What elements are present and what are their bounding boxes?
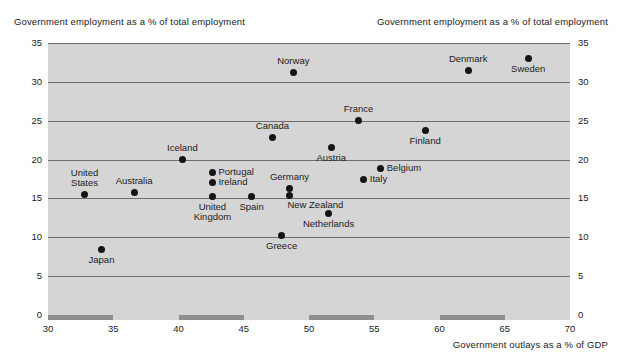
y-tick-right-30: 30 (578, 76, 604, 87)
data-point[interactable] (286, 185, 293, 192)
data-point[interactable] (131, 189, 138, 196)
data-point[interactable] (209, 179, 216, 186)
data-point-label: Austria (316, 153, 346, 164)
gridline-y-20 (48, 160, 570, 161)
data-point[interactable] (179, 156, 186, 163)
y-tick-left-20: 20 (16, 154, 42, 165)
y-tick-left-35: 35 (16, 37, 42, 48)
data-point-label: France (344, 104, 374, 115)
data-point-label: Sweden (511, 64, 545, 75)
x-axis-band-5 (374, 315, 439, 320)
data-point[interactable] (328, 144, 335, 151)
x-tick-70: 70 (555, 323, 585, 334)
gridline-y-35 (48, 43, 570, 44)
gridline-y-10 (48, 237, 570, 238)
data-point-label: United States (71, 168, 98, 189)
data-point[interactable] (81, 191, 88, 198)
x-axis-band-7 (505, 315, 570, 320)
x-tick-60: 60 (425, 323, 455, 334)
y-tick-left-30: 30 (16, 76, 42, 87)
gridline-y-30 (48, 82, 570, 83)
y-tick-right-15: 15 (578, 192, 604, 203)
y-axis-caption-left: Government employment as a % of total em… (14, 16, 245, 27)
data-point-label: Finland (410, 136, 441, 147)
data-point-label: Italy (370, 174, 387, 185)
data-point-label: Norway (277, 56, 309, 67)
plot-area: NorwayDenmarkSwedenFranceCanadaFinlandAu… (48, 43, 570, 315)
data-point-label: Iceland (167, 143, 198, 154)
x-tick-45: 45 (229, 323, 259, 334)
data-point-label: Australia (116, 176, 153, 187)
data-point[interactable] (325, 210, 332, 217)
y-axis-caption-right: Government employment as a % of total em… (377, 16, 608, 27)
x-tick-65: 65 (490, 323, 520, 334)
data-point[interactable] (465, 67, 472, 74)
x-tick-55: 55 (359, 323, 389, 334)
data-point-label: United Kingdom (194, 202, 232, 223)
y-tick-right-35: 35 (578, 37, 604, 48)
data-point[interactable] (422, 127, 429, 134)
data-point[interactable] (377, 165, 384, 172)
x-axis-band-4 (309, 315, 374, 320)
data-point[interactable] (269, 134, 276, 141)
data-point[interactable] (525, 55, 532, 62)
x-axis-banded-line (48, 315, 570, 320)
x-tick-40: 40 (164, 323, 194, 334)
data-point-label: Netherlands (303, 219, 354, 230)
x-axis-band-1 (113, 315, 178, 320)
x-axis-band-0 (48, 315, 113, 320)
data-point[interactable] (98, 246, 105, 253)
y-tick-right-20: 20 (578, 154, 604, 165)
data-point-label: Canada (256, 121, 289, 132)
x-tick-50: 50 (294, 323, 324, 334)
y-tick-left-0: 0 (16, 309, 42, 320)
scatter-chart-figure: Government employment as a % of total em… (0, 0, 622, 359)
y-tick-left-5: 5 (16, 270, 42, 281)
y-tick-left-25: 25 (16, 115, 42, 126)
data-point-label: Spain (239, 202, 263, 213)
data-point-label: Germany (270, 172, 309, 183)
data-point[interactable] (290, 69, 297, 76)
data-point[interactable] (360, 176, 367, 183)
y-tick-right-5: 5 (578, 270, 604, 281)
y-tick-left-15: 15 (16, 192, 42, 203)
x-axis-band-6 (440, 315, 505, 320)
data-point-label: New Zealand (287, 200, 343, 211)
y-tick-right-10: 10 (578, 231, 604, 242)
y-tick-left-10: 10 (16, 231, 42, 242)
data-point[interactable] (286, 192, 293, 199)
data-point-label: Denmark (449, 54, 488, 65)
x-tick-30: 30 (33, 323, 63, 334)
x-axis-band-2 (179, 315, 244, 320)
x-tick-35: 35 (98, 323, 128, 334)
y-tick-right-25: 25 (578, 115, 604, 126)
gridline-y-5 (48, 276, 570, 277)
gridline-y-25 (48, 121, 570, 122)
data-point-label: Ireland (218, 177, 247, 188)
x-axis-caption: Government outlays as a % of GDP (453, 339, 608, 350)
data-point-label: Japan (89, 255, 115, 266)
data-point-label: Greece (266, 241, 297, 252)
data-point[interactable] (355, 117, 362, 124)
y-tick-right-0: 0 (578, 309, 604, 320)
x-axis-band-3 (244, 315, 309, 320)
data-point-label: Belgium (387, 163, 421, 174)
data-point[interactable] (209, 169, 216, 176)
